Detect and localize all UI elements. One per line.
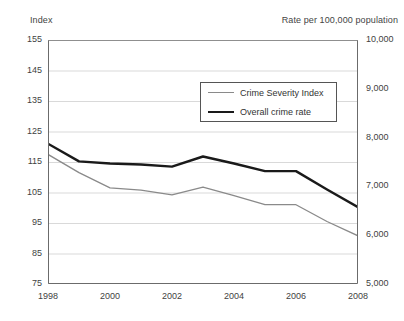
x-axis-tick-label: 2006 xyxy=(279,291,313,301)
x-axis-tick-label: 2000 xyxy=(93,291,127,301)
legend-item: Crime Severity Index xyxy=(201,83,336,102)
y-axis-tick-label: 125 xyxy=(8,126,42,136)
series-lines xyxy=(48,144,358,236)
legend-item-label: Overall crime rate xyxy=(240,107,311,117)
y-axis-tick-label: 135 xyxy=(8,95,42,105)
y-axis-tick-label: 75 xyxy=(8,278,42,288)
x-axis-tick-label: 2004 xyxy=(217,291,251,301)
right-axis-title: Rate per 100,000 population xyxy=(282,15,398,25)
y-axis-tick-label: 105 xyxy=(8,187,42,197)
y-axis-tick-label: 145 xyxy=(8,65,42,75)
y-axis-tick-label: 95 xyxy=(8,217,42,227)
legend-line-swatch-icon xyxy=(208,92,234,93)
legend-item: Overall crime rate xyxy=(201,102,336,121)
y-axis-tick-label: 115 xyxy=(8,156,42,166)
plot-svg xyxy=(48,40,358,284)
legend-item-label: Crime Severity Index xyxy=(240,88,324,98)
x-axis-tick-label: 2002 xyxy=(155,291,189,301)
chart-legend: Crime Severity IndexOverall crime rate xyxy=(200,82,337,122)
x-axis-tick-label: 1998 xyxy=(31,291,65,301)
y-axis-tick-label: 155 xyxy=(8,34,42,44)
y2-axis-tick-label: 6,000 xyxy=(366,229,404,239)
crime-severity-line-chart: Index Rate per 100,000 population 758595… xyxy=(0,0,404,321)
y2-axis-tick-label: 10,000 xyxy=(366,34,404,44)
y-axis-tick-label: 85 xyxy=(8,248,42,258)
legend-line-swatch-icon xyxy=(208,111,234,113)
y2-axis-tick-label: 8,000 xyxy=(366,132,404,142)
x-axis-tick-label: 2008 xyxy=(341,291,375,301)
plot-area xyxy=(48,40,358,284)
left-axis-title: Index xyxy=(30,15,53,25)
y2-axis-tick-label: 9,000 xyxy=(366,83,404,93)
y2-axis-tick-label: 5,000 xyxy=(366,278,404,288)
y2-axis-tick-label: 7,000 xyxy=(366,180,404,190)
